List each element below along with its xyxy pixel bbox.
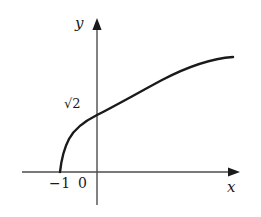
math-figure-sqrt-curve: y x √2 −1 0 — [0, 0, 261, 217]
x-tick-label-minus-one: −1 — [49, 176, 71, 190]
sqrt-function-curve — [60, 57, 233, 172]
origin-label-zero: 0 — [78, 176, 87, 190]
y-axis-arrowhead — [92, 18, 101, 30]
y-axis-label: y — [75, 16, 83, 31]
x-axis-arrowhead — [228, 167, 240, 176]
graph-canvas — [0, 0, 261, 217]
x-axis-label: x — [227, 180, 235, 195]
y-intercept-label-sqrt2: √2 — [64, 97, 81, 110]
